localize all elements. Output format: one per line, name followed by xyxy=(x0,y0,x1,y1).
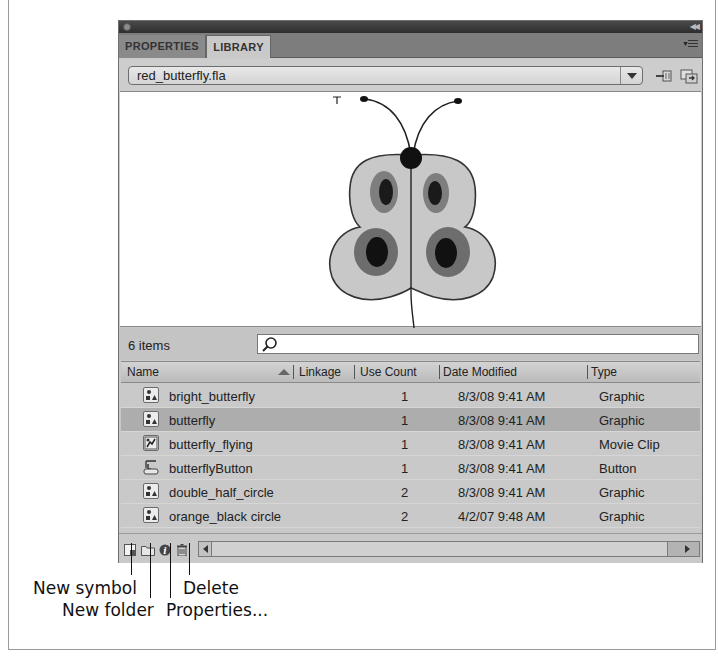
panel-titlebar: ◀◀ xyxy=(119,21,702,33)
butterfly-preview-image xyxy=(120,92,701,328)
column-header-name[interactable]: Name xyxy=(127,365,159,379)
scroll-left-icon[interactable] xyxy=(199,542,212,556)
item-name: orange_black circle xyxy=(169,509,281,524)
column-divider[interactable] xyxy=(439,365,440,379)
item-date-modified: 8/3/08 9:41 AM xyxy=(458,389,545,404)
callout-line-new-folder xyxy=(150,543,151,598)
table-row[interactable]: orange_black circle 2 4/2/07 9:48 AM Gra… xyxy=(121,504,700,528)
item-type: Movie Clip xyxy=(599,437,660,452)
table-row[interactable]: butterfly 1 8/3/08 9:41 AM Graphic xyxy=(121,408,700,432)
library-items: bright_butterfly 1 8/3/08 9:41 AM Graphi… xyxy=(121,384,700,529)
item-type: Graphic xyxy=(599,485,645,500)
graphic-symbol-icon xyxy=(143,411,159,427)
pin-library-button[interactable] xyxy=(655,68,673,84)
scroll-right-icon[interactable] xyxy=(667,542,699,556)
item-name: bright_butterfly xyxy=(169,389,255,404)
column-divider[interactable] xyxy=(354,365,355,379)
horizontal-scrollbar[interactable] xyxy=(198,541,700,557)
callout-line-delete xyxy=(189,543,190,575)
column-divider[interactable] xyxy=(587,365,588,379)
bottom-toolbar: i xyxy=(119,533,702,563)
table-row[interactable]: butterflyButton 1 8/3/08 9:41 AM Button xyxy=(121,456,700,480)
close-icon[interactable] xyxy=(123,23,131,31)
item-name: double_half_circle xyxy=(169,485,274,500)
item-date-modified: 8/3/08 9:41 AM xyxy=(458,485,545,500)
tab-properties[interactable]: PROPERTIES xyxy=(119,35,206,58)
panel-menu-icon[interactable]: ▼ xyxy=(682,38,698,50)
callout-new-folder: New folder xyxy=(62,600,154,620)
item-type: Graphic xyxy=(599,509,645,524)
item-use-count: 1 xyxy=(401,389,408,404)
graphic-symbol-icon xyxy=(143,387,159,403)
trash-icon xyxy=(176,544,188,556)
item-date-modified: 8/3/08 9:41 AM xyxy=(458,413,545,428)
callout-delete: Delete xyxy=(183,578,239,598)
new-folder-button[interactable] xyxy=(141,542,155,554)
callout-properties: Properties... xyxy=(166,600,268,620)
search-input[interactable] xyxy=(280,336,690,352)
graphic-symbol-icon xyxy=(143,507,159,523)
column-header-use-count[interactable]: Use Count xyxy=(360,365,417,379)
new-library-panel-button[interactable] xyxy=(680,68,698,84)
column-header-date-modified[interactable]: Date Modified xyxy=(443,365,517,379)
button-symbol-icon xyxy=(143,459,159,475)
folder-icon xyxy=(141,544,155,556)
item-name: butterfly xyxy=(169,413,215,428)
pin-library-icon xyxy=(655,68,673,84)
item-type: Graphic xyxy=(599,389,645,404)
symbol-preview xyxy=(120,91,701,327)
new-symbol-button[interactable] xyxy=(124,542,136,554)
item-use-count: 2 xyxy=(401,509,408,524)
item-name: butterflyButton xyxy=(169,461,253,476)
table-row[interactable]: double_half_circle 2 8/3/08 9:41 AM Grap… xyxy=(121,480,700,504)
document-select[interactable]: red_butterfly.fla xyxy=(128,66,643,85)
movie-clip-icon xyxy=(143,435,159,451)
document-row: red_butterfly.fla xyxy=(119,59,702,91)
item-name: butterfly_flying xyxy=(169,437,253,452)
item-date-modified: 8/3/08 9:41 AM xyxy=(458,461,545,476)
new-library-panel-icon xyxy=(680,68,698,84)
table-header: Name Linkage Use Count Date Modified Typ… xyxy=(121,361,700,383)
callout-line-properties xyxy=(170,543,171,598)
column-divider[interactable] xyxy=(293,365,294,379)
callout-line-new-symbol xyxy=(131,543,132,575)
document-select-value: red_butterfly.fla xyxy=(137,68,226,83)
search-icon xyxy=(261,336,279,354)
search-box[interactable] xyxy=(257,334,699,354)
svg-text:i: i xyxy=(163,546,167,556)
item-use-count: 1 xyxy=(401,461,408,476)
item-type: Button xyxy=(599,461,637,476)
item-date-modified: 8/3/08 9:41 AM xyxy=(458,437,545,452)
collapse-icon[interactable]: ◀◀ xyxy=(690,21,698,33)
library-panel: ◀◀ PROPERTIES LIBRARY ▼ red_butterfly.fl… xyxy=(118,20,703,563)
sort-ascending-icon[interactable] xyxy=(278,369,290,375)
count-search-row: 6 items xyxy=(119,328,702,360)
column-header-type[interactable]: Type xyxy=(591,365,617,379)
item-type: Graphic xyxy=(599,413,645,428)
item-use-count: 2 xyxy=(401,485,408,500)
column-header-linkage[interactable]: Linkage xyxy=(299,365,341,379)
items-count: 6 items xyxy=(128,338,170,353)
table-row[interactable]: bright_butterfly 1 8/3/08 9:41 AM Graphi… xyxy=(121,384,700,408)
item-use-count: 1 xyxy=(401,413,408,428)
item-use-count: 1 xyxy=(401,437,408,452)
tab-library[interactable]: LIBRARY xyxy=(206,35,271,58)
item-date-modified: 4/2/07 9:48 AM xyxy=(458,509,545,524)
graphic-symbol-icon xyxy=(143,483,159,499)
tab-bar: PROPERTIES LIBRARY ▼ xyxy=(119,33,702,58)
new-symbol-icon xyxy=(124,544,136,556)
table-row[interactable]: butterfly_flying 1 8/3/08 9:41 AM Movie … xyxy=(121,432,700,456)
callout-new-symbol: New symbol xyxy=(33,578,137,598)
delete-button[interactable] xyxy=(176,542,188,554)
chevron-down-icon[interactable] xyxy=(620,67,642,84)
